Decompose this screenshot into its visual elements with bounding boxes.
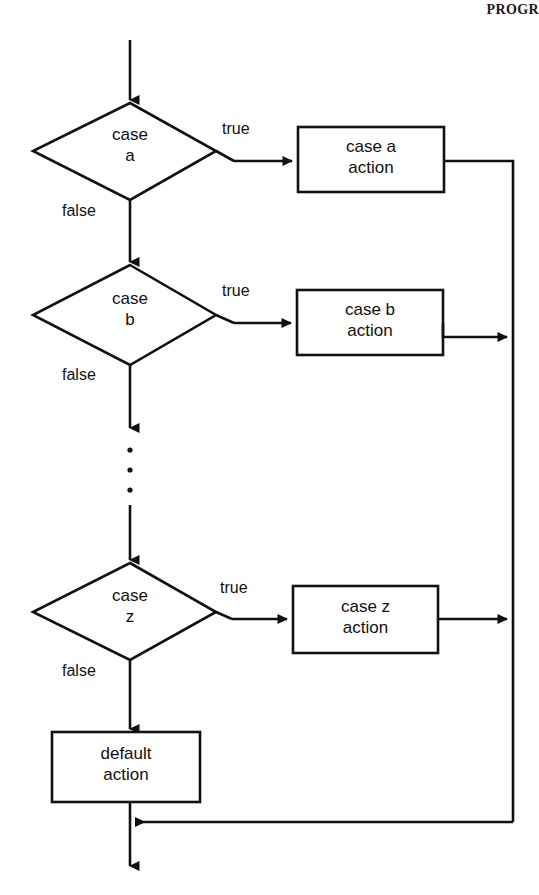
edge-case-b-true-elbow	[216, 315, 234, 323]
edge-case-b-to-rail	[443, 323, 507, 337]
edge-case-z-true-elbow	[216, 612, 232, 619]
flowchart-canvas	[0, 0, 539, 895]
edge-case-a-true-elbow	[216, 151, 234, 161]
ellipsis-dot-2	[127, 467, 132, 472]
rail-right-main	[444, 161, 513, 822]
ellipsis-dot-3	[127, 487, 132, 492]
action-case-a	[298, 127, 444, 192]
action-default	[52, 732, 200, 802]
decision-case-z	[33, 563, 216, 660]
ellipsis-dot-1	[127, 447, 132, 452]
decision-case-b	[33, 265, 216, 365]
action-case-z	[293, 586, 438, 653]
action-case-b	[297, 290, 443, 355]
decision-case-a	[33, 103, 216, 200]
